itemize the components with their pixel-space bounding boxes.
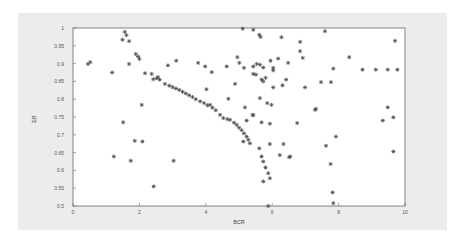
data-point-asterisk [255,62,259,66]
data-point-asterisk [226,97,230,101]
data-point-asterisk [163,82,167,86]
data-point-asterisk [271,68,275,72]
data-point-asterisk [391,150,395,154]
data-point-asterisk [133,139,137,143]
data-point-asterisk [166,63,170,67]
data-point-asterisk [248,141,252,145]
data-point-asterisk [329,80,333,84]
x-tick-label: 2 [138,209,141,215]
data-point-asterisk [196,61,200,65]
data-point-asterisk [246,138,250,142]
data-point-asterisk [198,99,202,103]
data-point-asterisk [140,140,144,144]
data-point-asterisk [280,83,284,87]
data-point-asterisk [242,66,246,70]
data-point-asterisk [127,62,131,66]
data-point-asterisk [137,57,141,61]
data-point-asterisk [240,128,244,132]
data-point-asterisk [221,116,225,120]
data-point-asterisk [203,64,207,68]
data-point-asterisk [319,80,323,84]
data-point-asterisk [228,118,232,122]
data-point-asterisk [288,155,292,159]
data-point-asterisk [225,64,229,68]
data-point-asterisk [254,73,258,77]
data-point-asterisk [295,121,299,125]
data-point-asterisk [331,67,335,71]
y-axis-label: EB [31,115,37,123]
data-point-asterisk [334,135,338,139]
data-point-asterisk [268,122,272,126]
data-point-asterisk [143,71,147,75]
data-point-asterisk [361,68,365,72]
data-point-asterisk [88,60,92,64]
y-tick-label: 0.95 [54,43,64,49]
data-point-asterisk [251,113,255,117]
data-point-asterisk [129,159,133,163]
data-point-asterisk [286,61,290,65]
data-point-asterisk [268,142,272,146]
data-point-asterisk [374,68,378,72]
data-point-asterisk [260,155,264,159]
x-tick-label: 6 [271,209,274,215]
data-point-asterisk [237,61,241,65]
data-point-asterisk [278,153,282,157]
scatter-chart: 0246810 0.50.550.60.650.70.750.80.850.90… [0,0,468,245]
y-tick-label: 0.9 [57,61,64,67]
y-tick-label: 0.8 [57,96,64,102]
x-axis-label: BCR [233,219,245,225]
y-tick-label: 0.55 [54,185,64,191]
data-point-asterisk [241,27,245,31]
data-point-asterisk [214,108,218,112]
x-tick-label: 4 [204,209,207,215]
y-tick-label: 0.65 [54,150,64,156]
x-tick-label: 10 [402,209,408,215]
data-point-asterisk [261,179,265,183]
data-point-asterisk [324,144,328,148]
data-point-asterisk [251,28,255,32]
data-point-asterisk [261,160,265,164]
x-tick-label: 8 [337,209,340,215]
data-point-asterisk [251,64,255,68]
x-tick-label: 0 [72,209,75,215]
y-tick-label: 0.6 [57,167,64,173]
data-point-asterisk [242,131,246,135]
data-point-asterisk [241,140,245,144]
y-tick-label: 0.5 [57,203,64,209]
data-point-asterisk [266,171,270,175]
y-tick-label: 0.7 [57,132,64,138]
data-point-asterisk [218,113,222,117]
data-point-asterisk [395,68,399,72]
data-point-asterisk [268,176,272,180]
plot-area [73,28,405,206]
y-tick-label: 0.85 [54,78,64,84]
data-point-asterisk [331,190,335,194]
data-point-asterisk [329,162,333,166]
y-tick-label: 1 [61,25,64,31]
data-point-asterisk [257,146,261,150]
data-point-asterisk [331,201,335,205]
data-point-asterisk [172,159,176,163]
data-point-asterisk [281,142,285,146]
data-point-asterisk [264,166,268,170]
data-point-asterisk [204,87,208,91]
data-point-asterisk [261,79,265,83]
data-point-asterisk [386,68,390,72]
data-point-asterisk [323,29,327,33]
data-point-asterisk [261,66,265,70]
y-tick-label: 0.75 [54,114,64,120]
data-point-asterisk [205,103,209,107]
data-point-asterisk [243,105,247,109]
data-point-asterisk [152,184,156,188]
data-point-asterisk [386,105,390,109]
data-point-asterisk [266,204,270,208]
data-point-asterisk [233,82,237,86]
data-point-asterisk [112,155,116,159]
